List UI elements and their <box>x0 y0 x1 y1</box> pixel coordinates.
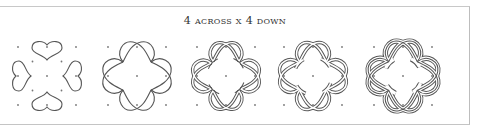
heart-motif-icon <box>9 38 85 114</box>
step-2-diagram <box>99 38 175 114</box>
interlaced-loops-icon <box>99 38 175 114</box>
doubled-ring-icon <box>275 38 351 114</box>
step-1-diagram <box>9 38 85 114</box>
doubled-loops-icon <box>188 38 264 114</box>
step-3-diagram <box>188 38 264 114</box>
figure-title: 4 across x 4 down <box>0 14 470 27</box>
step-5-diagram <box>365 38 441 114</box>
step-4-diagram <box>275 38 351 114</box>
full-knot-icon <box>365 38 441 114</box>
